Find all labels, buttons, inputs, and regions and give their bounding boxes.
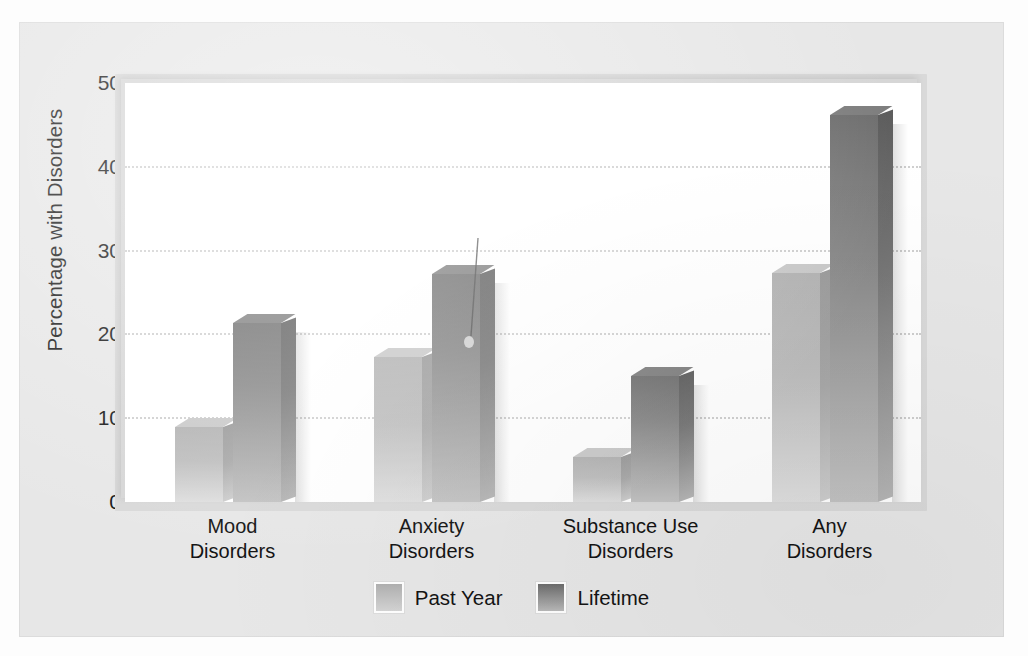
x-label-0: MoodDisorders [190,514,276,564]
bar-lifetime-0 [233,323,281,502]
x-label-line: Anxiety [389,514,475,539]
chart-legend: Past YearLifetime [19,582,1004,613]
x-label-line: Disorders [190,539,276,564]
bar-past-year-1 [374,357,422,502]
y-tick-0: 0 [59,490,121,514]
x-label-line: Substance Use [563,514,699,539]
x-label-3: AnyDisorders [787,514,873,564]
bar-shadow [494,283,510,502]
y-tick-50: 50 [59,71,121,95]
legend-swatch-life [536,582,566,613]
bar-lifetime-1 [432,274,480,502]
bar-past-year-2 [573,457,621,502]
bar-front-face [631,376,679,502]
bar-shadow [693,385,709,502]
legend-entry-past: Past Year [374,582,503,613]
bar-front-face [772,273,820,502]
bar-front-face [432,274,480,502]
y-tick-10: 10 [59,406,121,430]
x-label-2: Substance UseDisorders [563,514,699,564]
bar-front-face [830,115,878,502]
bar-side-face [679,371,694,502]
x-label-line: Disorders [563,539,699,564]
bar-past-year-0 [175,427,223,502]
bar-side-face [480,269,495,502]
bar-lifetime-3 [830,115,878,502]
bar-side-face [878,109,893,502]
bar-side-face [281,317,296,502]
x-axis-category-labels: MoodDisordersAnxietyDisordersSubstance U… [125,514,935,574]
x-label-line: Mood [190,514,276,539]
bar-front-face [374,357,422,502]
y-tick-30: 30 [59,239,121,263]
bar-past-year-3 [772,273,820,502]
bar-front-face [175,427,223,502]
legend-entry-life: Lifetime [536,582,649,613]
bar-shadow [295,332,311,502]
bar-front-face [573,457,621,502]
legend-swatch-past [374,582,404,613]
gridline-30 [125,250,921,252]
plot-area [125,83,921,502]
legend-label-life: Lifetime [577,586,649,610]
y-tick-20: 20 [59,322,121,346]
gridline-40 [125,166,921,168]
x-label-1: AnxietyDisorders [389,514,475,564]
bar-lifetime-2 [631,376,679,502]
bar-shadow [892,124,908,502]
scanned-figure-page: Percentage with Disorders 01020304050 Mo… [0,0,1028,656]
legend-label-past: Past Year [415,586,503,610]
figure-panel: Percentage with Disorders 01020304050 Mo… [19,22,1004,637]
x-label-line: Any [787,514,873,539]
x-label-line: Disorders [389,539,475,564]
y-axis-tick-labels: 01020304050 [59,80,121,512]
bar-front-face [233,323,281,502]
y-tick-40: 40 [59,155,121,179]
x-label-line: Disorders [787,539,873,564]
